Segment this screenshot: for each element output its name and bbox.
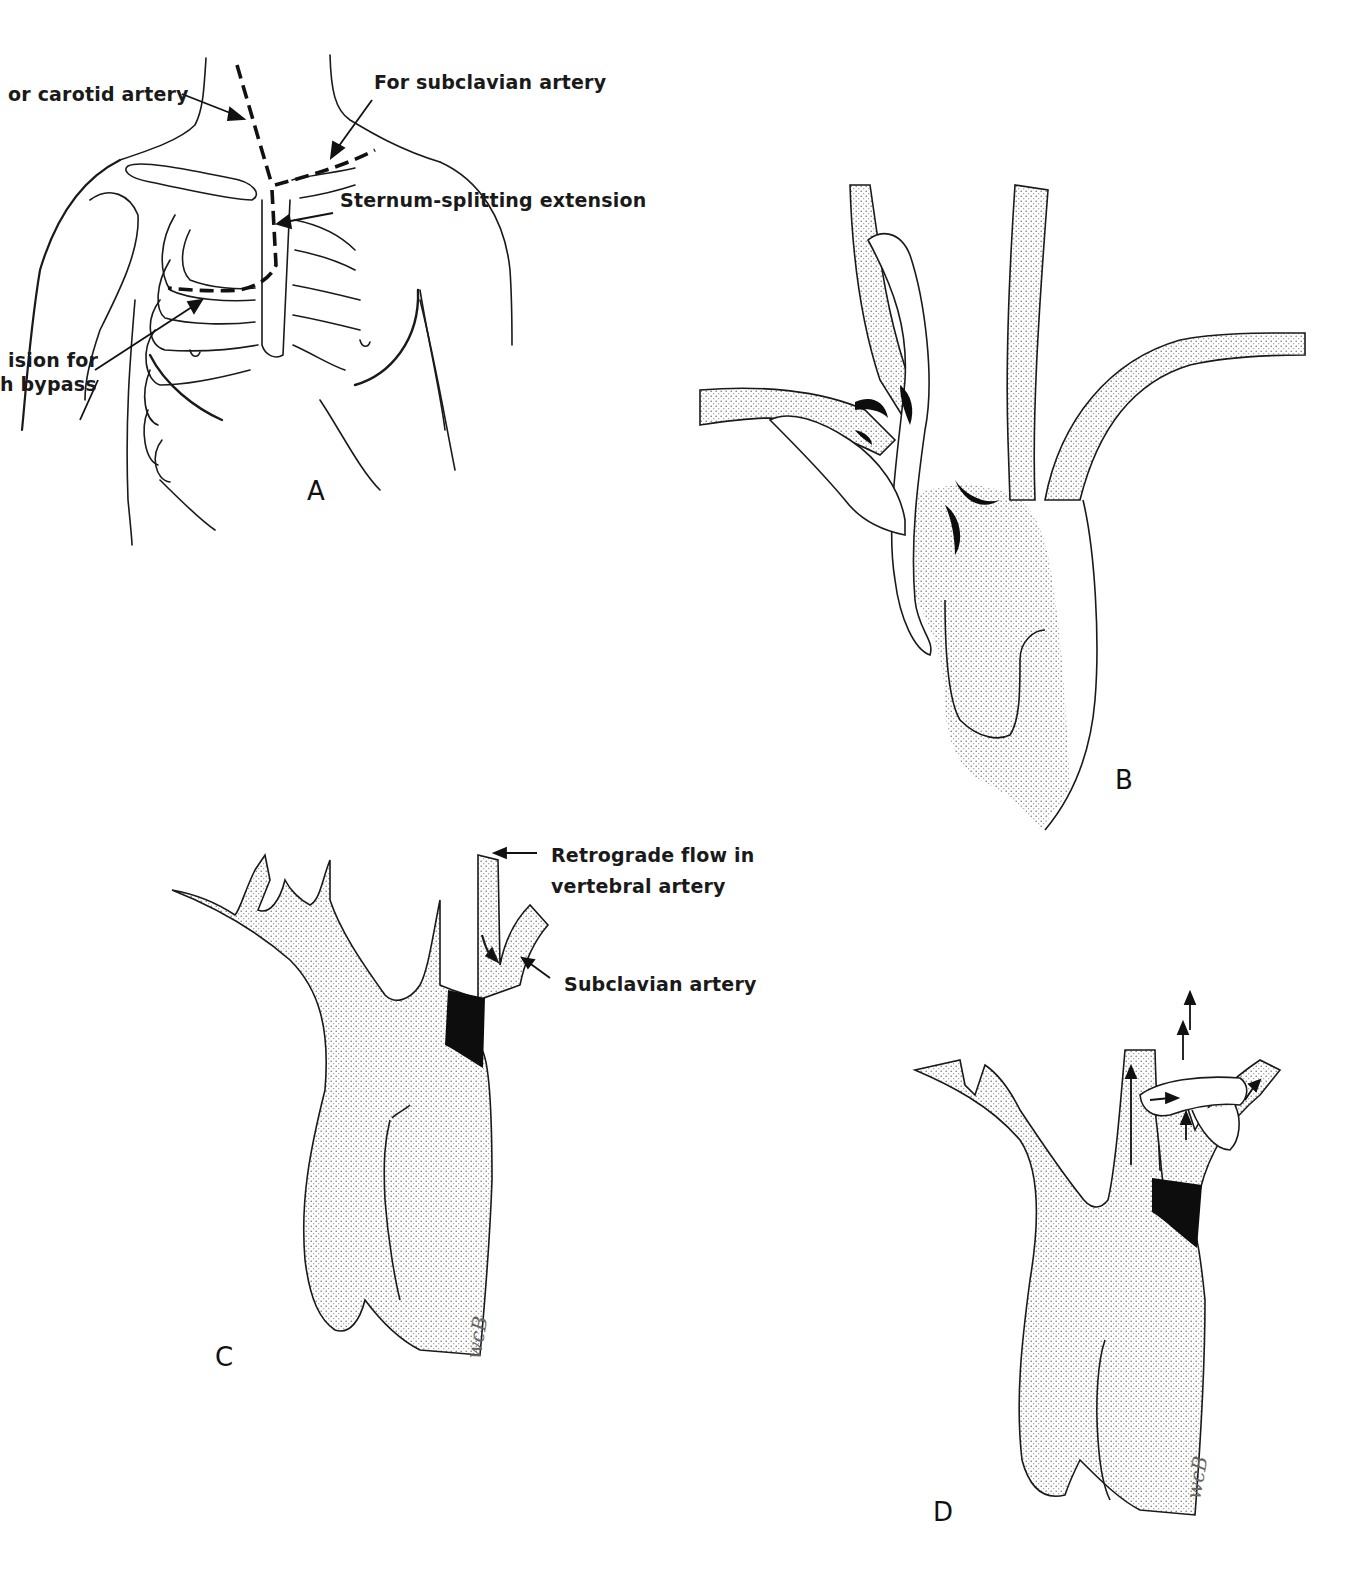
- medical-illustration: wcB wcB: [0, 0, 1354, 1582]
- label-sternum-splitting: Sternum-splitting extension: [340, 188, 647, 212]
- panel-letter-b: B: [1115, 765, 1133, 795]
- panel-d-arch-drawing: [915, 1050, 1280, 1515]
- subclavian-incision: [275, 150, 375, 185]
- panel-c-arch-drawing: [172, 855, 548, 1355]
- panel-letter-a: A: [307, 476, 325, 506]
- sternum-splitting-incision: [168, 190, 276, 291]
- incision-lines: [168, 65, 375, 291]
- label-bypass-line2: h bypass: [0, 372, 97, 396]
- panel-letter-d: D: [933, 1497, 953, 1527]
- panel-a-chest-drawing: [22, 55, 512, 545]
- panel-b-arch-drawing: [700, 185, 1305, 830]
- label-retrograde-flow-line2: vertebral artery: [551, 874, 726, 898]
- carotid-incision: [237, 65, 272, 185]
- label-subclavian-artery-a: For subclavian artery: [374, 70, 606, 94]
- label-subclavian-artery-c: Subclavian artery: [564, 972, 757, 996]
- label-carotid-artery: or carotid artery: [8, 82, 189, 106]
- label-arrows-a: [80, 94, 372, 420]
- panel-letter-c: C: [215, 1342, 233, 1372]
- label-retrograde-flow-line1: Retrograde flow in: [551, 843, 755, 867]
- label-bypass-line1: ision for: [8, 348, 98, 372]
